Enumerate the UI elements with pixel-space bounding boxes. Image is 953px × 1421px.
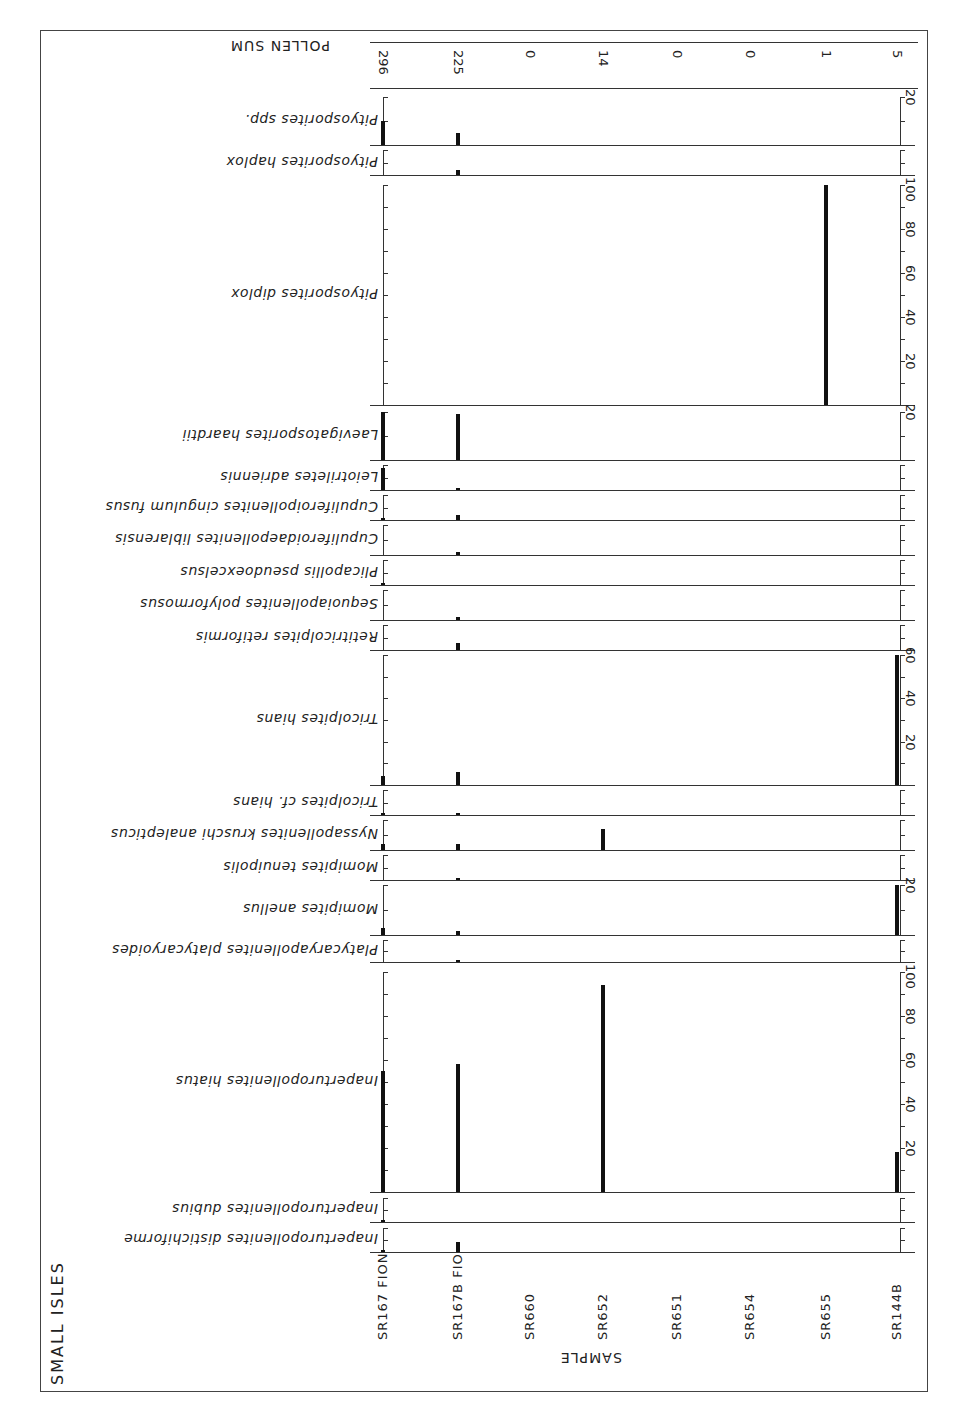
taxon-label: Inaperturopollenites hiatus [40, 1073, 378, 1089]
taxon-bar [381, 813, 385, 816]
scale-tick [900, 1082, 905, 1083]
scale-tick [900, 1170, 905, 1171]
scale-tick [383, 885, 388, 886]
taxon-bar [456, 813, 460, 815]
taxon-label: Plicapollis pseudoexcelsus [40, 564, 378, 580]
scale-tick [383, 720, 388, 721]
scale-tick [900, 638, 905, 639]
taxon-bar [824, 185, 828, 405]
scale-tick [900, 855, 905, 856]
sample-label: SR167B FIO [450, 1253, 465, 1340]
scale-tick [383, 1210, 388, 1211]
taxon-bar [381, 844, 385, 850]
taxon-bar [456, 617, 460, 620]
scale-tick [383, 855, 388, 856]
scale-label: 20 [903, 89, 918, 106]
scale-tick [383, 229, 388, 230]
sample-label: SR654 [742, 1293, 757, 1340]
taxon-label: Inaperturopollenites dubius [40, 1201, 378, 1217]
taxon-bar [456, 772, 460, 785]
scale-tick [383, 465, 388, 466]
taxon-bar [456, 643, 460, 651]
scale-tick [383, 97, 388, 98]
taxon-label: Leiotriletes adriennis [40, 469, 378, 485]
taxon-label: Platycaryapollenites platycaryoides [40, 942, 378, 958]
scale-tick [900, 868, 905, 869]
scale-tick [383, 1060, 388, 1061]
panel-baseline [370, 935, 915, 936]
scale-label: 40 [903, 309, 918, 326]
taxon-label: Pityosporites haplox [40, 154, 378, 170]
taxon-bar [381, 1071, 385, 1192]
taxon-bar [381, 121, 385, 145]
scale-tick [383, 1038, 388, 1039]
taxon-bar [456, 133, 460, 145]
taxon-label: Pityosporites diplox [40, 286, 378, 302]
scale-tick [900, 1198, 905, 1199]
scale-tick [383, 495, 388, 496]
sample-axis-label: SAMPLE [560, 1350, 622, 1366]
scale-tick [900, 121, 905, 122]
scale-tick [900, 495, 905, 496]
taxon-bar [456, 1064, 460, 1192]
scale-tick [900, 508, 905, 509]
scale-tick [900, 560, 905, 561]
taxon-label: Cupuliferoidaepollenites liblarensis [40, 531, 378, 547]
scale-tick [383, 383, 388, 384]
scale-tick [383, 994, 388, 995]
taxon-bar [456, 960, 460, 962]
pollen-sum-top-line [370, 42, 918, 43]
panel-baseline [370, 405, 915, 406]
panel-baseline [370, 555, 915, 556]
taxon-bar [381, 583, 385, 586]
scale-label: 40 [903, 690, 918, 707]
scale-tick [900, 835, 905, 836]
scale-tick [900, 803, 905, 804]
taxon-label: Sequoiapollenites polyformosus [40, 596, 378, 612]
scale-label: 60 [903, 647, 918, 664]
taxon-label: Momipites anellus [40, 901, 378, 917]
scale-tick [900, 605, 905, 606]
scale-tick [383, 540, 388, 541]
scale-tick [900, 573, 905, 574]
scale-label: 80 [903, 221, 918, 238]
scale-label: 60 [903, 1052, 918, 1069]
scale-tick [383, 655, 388, 656]
panel-baseline [370, 520, 915, 521]
scale-label: 80 [903, 1008, 918, 1025]
taxon-label: Cupuliferoipollenites cingulum fusus [40, 499, 378, 515]
scale-tick [383, 207, 388, 208]
taxon-label: Laevigatosporites haardtii [40, 427, 378, 443]
panel-baseline [370, 650, 915, 651]
taxon-bar [456, 878, 460, 880]
scale-tick [383, 742, 388, 743]
panel-baseline [370, 1222, 915, 1223]
taxon-bar [381, 776, 385, 785]
taxon-bar [381, 468, 385, 491]
taxon-bar [381, 518, 385, 521]
sample-label: SR652 [595, 1293, 610, 1340]
scale-tick [383, 910, 388, 911]
scale-tick [900, 1240, 905, 1241]
scale-tick [383, 638, 388, 639]
taxon-bar [601, 985, 605, 1192]
chart-title: SMALL ISLES [48, 1261, 67, 1385]
taxon-bar [456, 931, 460, 935]
taxon-bar [456, 844, 460, 850]
scale-label: 20 [903, 353, 918, 370]
taxon-bar [895, 885, 899, 935]
scale-tick [900, 436, 905, 437]
taxon-bar [895, 655, 899, 785]
panel-baseline [370, 880, 915, 881]
taxon-bar [456, 488, 460, 491]
taxon-bar [601, 829, 605, 850]
scale-tick [900, 790, 905, 791]
scale-tick [383, 940, 388, 941]
scale-tick [383, 605, 388, 606]
scale-tick [900, 590, 905, 591]
scale-tick [900, 540, 905, 541]
taxon-bar [456, 414, 460, 460]
pollen-sum-value: 0 [670, 50, 685, 58]
scale-tick [383, 625, 388, 626]
pollen-sum-value: 14 [596, 50, 611, 67]
